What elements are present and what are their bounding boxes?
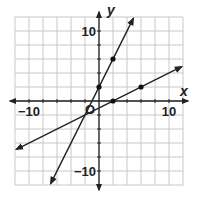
y-tick-label: 10 bbox=[82, 24, 96, 39]
data-point bbox=[96, 84, 101, 89]
data-point bbox=[138, 84, 143, 89]
y-tick-label: −10 bbox=[74, 164, 96, 179]
data-point bbox=[110, 98, 115, 103]
y-axis-label: y bbox=[106, 2, 116, 18]
x-tick-label: 10 bbox=[162, 104, 176, 119]
x-tick-label: −10 bbox=[18, 104, 40, 119]
x-axis-label: x bbox=[179, 83, 189, 99]
data-point bbox=[110, 56, 115, 61]
coordinate-plane: −101010−10xyO bbox=[0, 0, 199, 200]
